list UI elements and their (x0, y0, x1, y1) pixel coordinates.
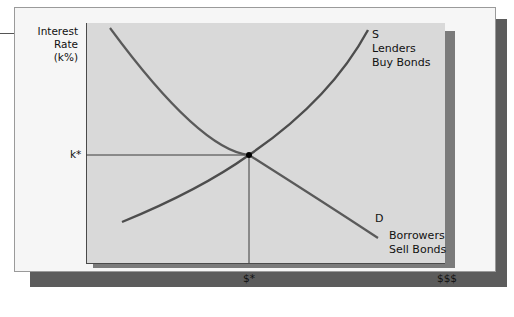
supply-description-line2: Buy Bonds (372, 56, 431, 70)
equilibrium-point (246, 152, 252, 158)
dollar-star-label: $* (243, 272, 255, 285)
demand-description-line2: Sell Bonds (389, 243, 446, 257)
supply-letter: S (372, 28, 431, 42)
supply-label: S Lenders Buy Bonds (372, 28, 431, 70)
demand-letter: D (375, 212, 383, 226)
demand-label: Borrowers Sell Bonds (389, 229, 446, 257)
k-star-label: k* (70, 148, 81, 161)
demand-curve (110, 28, 378, 238)
x-axis-label: $$$ (437, 272, 457, 285)
supply-description-line1: Lenders (372, 42, 431, 56)
supply-curve (122, 30, 368, 222)
y-axis-label-line3: (k%) (34, 51, 78, 64)
y-axis-label: Interest Rate (k%) (34, 25, 78, 64)
demand-description-line1: Borrowers (389, 229, 446, 243)
y-axis-label-line2: Rate (34, 38, 78, 51)
y-axis-label-line1: Interest (34, 25, 78, 38)
